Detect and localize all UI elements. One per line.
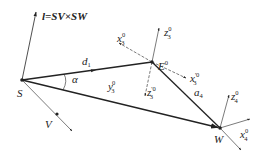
label-d1: d1 [82,55,91,68]
label-s: S [17,87,23,99]
point-w [218,126,222,130]
vector-diagram: l=SV×SW S V W E0 d1 α y03 a4 x03 z03 x'0… [0,0,263,157]
angle-alpha-arc [63,74,66,90]
label-z3-prime: z'03 [146,85,156,100]
label-z4: z04 [230,89,239,104]
label-v: V [45,118,53,130]
label-w: W [214,133,224,145]
normal-label: l=SV×SW [42,10,88,22]
axis-z4 [220,95,229,128]
label-a4: a4 [194,86,204,99]
label-x4: x04 [239,127,248,142]
axis-z3 [152,28,159,62]
point-e [150,60,153,63]
label-x3: x03 [116,31,125,46]
label-alpha: α [72,73,78,85]
label-e: E0 [157,59,168,72]
label-x3-prime: x'03 [189,71,199,86]
point-v [55,112,58,115]
point-s [20,78,24,82]
label-z3: z03 [163,25,172,40]
label-y3: y03 [107,79,115,94]
normal-vector-l [22,12,36,80]
